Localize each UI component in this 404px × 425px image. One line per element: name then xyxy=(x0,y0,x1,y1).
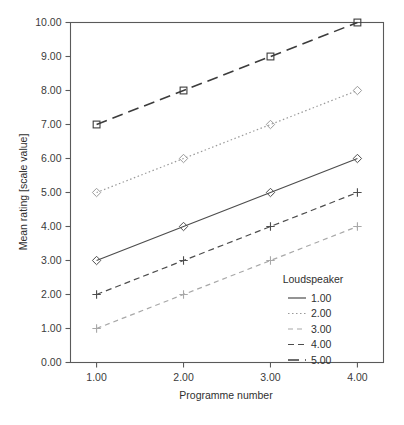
legend-items: 1.002.003.004.005.00 xyxy=(288,292,332,366)
data-point-diamond-marker xyxy=(266,120,274,128)
y-tick-label: 9.00 xyxy=(41,50,62,62)
series-1-00 xyxy=(92,154,361,264)
data-point-diamond-marker xyxy=(92,256,100,264)
x-tick-label: 2.00 xyxy=(173,371,194,383)
plus-icon xyxy=(266,256,274,264)
legend-item-label: 3.00 xyxy=(311,323,332,335)
legend-item-5-00[interactable]: 5.00 xyxy=(288,354,332,366)
y-tick-label: 2.00 xyxy=(41,288,62,300)
plus-icon xyxy=(266,222,274,230)
plus-icon xyxy=(353,222,361,230)
x-tick-label: 4.00 xyxy=(347,371,368,383)
legend-item-label: 1.00 xyxy=(311,292,332,304)
x-tick-label: 1.00 xyxy=(86,371,107,383)
data-point-plus-marker xyxy=(266,256,274,264)
legend-item-label: 5.00 xyxy=(311,354,332,366)
legend-item-4-00[interactable]: 4.00 xyxy=(288,338,332,350)
y-tick-label: 1.00 xyxy=(41,322,62,334)
diamond-icon xyxy=(353,86,361,94)
y-tick-label: 0.00 xyxy=(41,356,62,368)
legend-item-2-00[interactable]: 2.00 xyxy=(288,307,332,319)
data-point-plus-marker xyxy=(179,290,187,298)
y-tick-label: 10.00 xyxy=(35,16,61,28)
data-point-plus-marker xyxy=(179,256,187,264)
plus-icon xyxy=(179,256,187,264)
diamond-icon xyxy=(266,120,274,128)
data-point-diamond-marker xyxy=(353,86,361,94)
plus-icon xyxy=(179,290,187,298)
plus-icon xyxy=(92,290,100,298)
legend-item-3-00[interactable]: 3.00 xyxy=(288,323,332,335)
y-tick-label: 5.00 xyxy=(41,186,62,198)
plus-icon xyxy=(92,324,100,332)
data-point-diamond-marker xyxy=(92,188,100,196)
data-point-plus-marker xyxy=(92,324,100,332)
series-5-00 xyxy=(93,19,361,128)
series-2-00 xyxy=(92,86,361,196)
diamond-icon xyxy=(92,256,100,264)
data-point-diamond-marker xyxy=(353,154,361,162)
chart-container: 0.001.002.003.004.005.006.007.008.009.00… xyxy=(0,0,404,425)
legend-item-1-00[interactable]: 1.00 xyxy=(288,292,332,304)
data-point-plus-marker xyxy=(353,222,361,230)
chart-legend: Loudspeaker 1.002.003.004.005.00 xyxy=(283,273,344,366)
y-tick-label: 8.00 xyxy=(41,84,62,96)
data-point-plus-marker xyxy=(266,222,274,230)
square-icon xyxy=(267,53,274,60)
diamond-icon xyxy=(92,188,100,196)
plus-icon xyxy=(353,188,361,196)
series-line xyxy=(97,159,358,261)
legend-item-label: 2.00 xyxy=(311,307,332,319)
diamond-icon xyxy=(353,154,361,162)
data-point-square-marker xyxy=(267,53,274,60)
x-axis-title: Programme number xyxy=(179,389,273,401)
data-point-plus-marker xyxy=(92,290,100,298)
line-chart: 0.001.002.003.004.005.006.007.008.009.00… xyxy=(0,0,404,425)
legend-title: Loudspeaker xyxy=(283,273,344,285)
legend-item-label: 4.00 xyxy=(311,338,332,350)
y-tick-label: 7.00 xyxy=(41,118,62,130)
y-tick-label: 3.00 xyxy=(41,254,62,266)
data-series-group xyxy=(92,19,361,333)
x-tick-label: 3.00 xyxy=(260,371,281,383)
y-tick-label: 6.00 xyxy=(41,152,62,164)
series-line xyxy=(97,23,358,125)
data-point-plus-marker xyxy=(353,188,361,196)
y-tick-label: 4.00 xyxy=(41,220,62,232)
series-line xyxy=(97,91,358,193)
y-axis-title: Mean rating [scale value] xyxy=(17,134,29,251)
y-axis: 0.001.002.003.004.005.006.007.008.009.00… xyxy=(35,16,70,368)
